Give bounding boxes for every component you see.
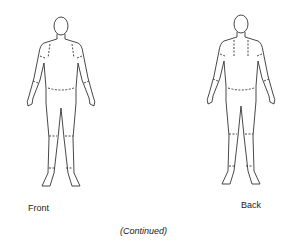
continued-note: (Continued) [0,226,287,236]
front-view-label: Front [28,203,49,213]
back-body-outline [196,8,286,198]
front-body-outline [16,8,106,198]
back-view-label: Back [241,200,261,210]
